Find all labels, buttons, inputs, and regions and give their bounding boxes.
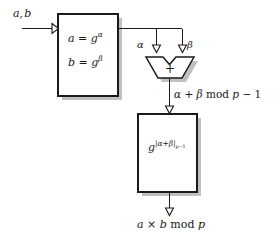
- diagram-svg: [0, 0, 276, 240]
- box1-equation-a: a = gα: [68, 33, 103, 44]
- wire-label-beta: β: [187, 40, 193, 50]
- arrowhead-into-output-icon: [166, 208, 174, 216]
- arrowhead-beta-into-adder-icon: [179, 45, 187, 53]
- box-exponentiation-result: [138, 114, 197, 192]
- output-label: a × b mod p: [137, 219, 205, 230]
- box1-equation-b: b = gβ: [68, 57, 103, 68]
- wire-label-alpha: α: [137, 40, 144, 50]
- arrowhead-into-box2-icon: [166, 106, 174, 114]
- arrowhead-alpha-into-adder-icon: [153, 45, 161, 53]
- adder-plus-symbol: +: [165, 63, 175, 75]
- box-exponentiation-pair: [58, 14, 118, 96]
- box2-equation: g|α+β|p−1: [148, 142, 185, 153]
- diagram-canvas: a, b a = gα b = gβ α β + α + β mod p − 1…: [0, 0, 276, 240]
- sum-expression-label: α + β mod p − 1: [174, 89, 261, 100]
- input-label: a, b: [13, 8, 31, 19]
